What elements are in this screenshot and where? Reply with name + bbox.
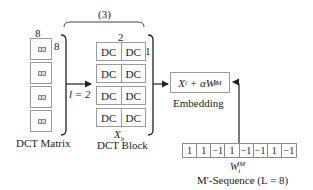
step-label: l = 2 — [69, 88, 90, 100]
dct-matrix-block — [30, 110, 52, 132]
dc-coefficient-icon — [38, 95, 46, 100]
sequence-cell: 1 — [183, 144, 197, 157]
sequence-caption: M'-Sequence (L = 8) — [197, 174, 288, 186]
dc-cell: DC — [97, 87, 122, 104]
dc-row: DC DC — [96, 64, 146, 83]
sequence-cell: −1 — [240, 144, 254, 157]
sequence-cell: 1 — [268, 144, 282, 157]
dc-row: DC DC — [96, 86, 146, 105]
dc-row: DC DC — [96, 108, 146, 127]
dct-matrix-block — [30, 86, 52, 108]
matrix-bracket — [61, 35, 66, 135]
sequence-cell: 1 — [225, 144, 239, 157]
dc-coefficient-icon — [38, 119, 46, 124]
dc-coefficient-icon — [38, 71, 46, 76]
dct-matrix-block — [30, 38, 52, 60]
dct-matrix-block — [30, 62, 52, 84]
dc-cell: DC — [122, 65, 146, 82]
dc-cell: DC — [97, 43, 122, 60]
sequence-cell: −1 — [254, 144, 268, 157]
dc-cell: DC — [122, 87, 146, 104]
group-brace — [64, 22, 144, 27]
embedding-caption: Embedding — [173, 97, 224, 109]
sequence-cell: −1 — [282, 144, 296, 157]
m-sequence: 1 1 −1 1 −1 −1 1 −1 — [182, 143, 297, 158]
dct-matrix-caption: DCT Matrix — [16, 137, 71, 149]
dc-cell: DC — [97, 109, 122, 126]
dc-coefficient-icon — [38, 47, 46, 52]
dc-cell: DC — [122, 43, 146, 60]
matrix-height-label: 8 — [54, 40, 60, 52]
embedding-formula-box: Xi + αWifM — [170, 72, 230, 93]
dc-cell: DC — [122, 109, 146, 126]
sequence-to-embed-arrow — [233, 82, 239, 143]
dc-cell: DC — [97, 65, 122, 82]
sequence-cell: −1 — [211, 144, 225, 157]
dc-row: DC DC — [96, 42, 146, 61]
group-count-label: (3) — [98, 8, 111, 20]
sequence-cell: 1 — [197, 144, 211, 157]
dct-block-caption: DCT Block — [97, 139, 148, 151]
